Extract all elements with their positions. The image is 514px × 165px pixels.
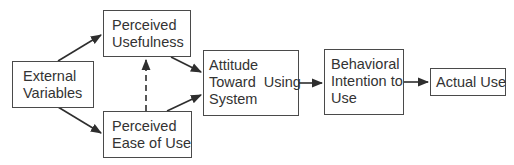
node-label-line: Use [331,90,403,107]
node-label-line: External [23,68,93,85]
node-label-line: Intention to [331,73,403,90]
node-external-variables: External Variables [12,61,94,108]
arrow-external-to-usefulness [58,35,101,61]
node-label-line: Toward Using [209,74,298,91]
node-label-line: Perceived [112,17,190,34]
node-behavioral-intention-to-use: Behavioral Intention to Use [324,49,404,115]
node-label-line: Actual Use [436,74,505,91]
arrow-external-to-ease [58,107,101,133]
arrow-ease-to-attitude [167,95,201,111]
node-label-line: Perceived [112,118,191,135]
arrow-usefulness-to-attitude [171,57,201,72]
node-label-line: Attitude [209,57,298,74]
node-perceived-usefulness: Perceived Usefulness [103,10,191,57]
node-perceived-ease-of-use: Perceived Ease of Use [103,111,192,158]
node-label-line: Behavioral [331,56,403,73]
node-label-line: Usefulness [112,34,190,51]
node-label-line: System [209,91,298,108]
node-label-line: Variables [23,85,93,102]
node-actual-use: Actual Use [430,68,506,96]
node-attitude-toward-using-system: Attitude Toward Using System [203,50,299,116]
node-label-line: Ease of Use [112,135,191,152]
